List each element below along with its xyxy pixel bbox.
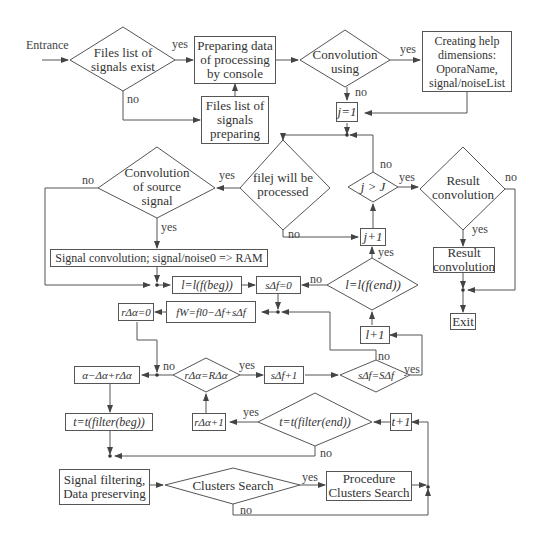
l-end-text: l=l(f(end))	[338, 277, 408, 293]
files-list-preparing-box: Files list of signals preparing	[201, 96, 269, 144]
yes-label: yes	[378, 245, 394, 260]
s-eq-S-text: sΔf=SΔf	[350, 368, 402, 382]
signal-convolution-box: Signal convolution; signal/noise0 => RAM	[50, 249, 268, 267]
result-convolution-question-text: Result convolution	[430, 172, 496, 204]
clusters-search-question-text: Clusters Search	[180, 478, 286, 494]
no-label: no	[505, 170, 517, 185]
yes-label: yes	[400, 42, 416, 57]
convolution-source-text: Convolution of source signal	[118, 165, 196, 209]
no-label: no	[310, 272, 322, 287]
yes-label: yes	[302, 470, 318, 485]
yes-label: yes	[161, 220, 177, 235]
s-increment-box: sΔf+1	[264, 366, 304, 384]
l-increment-box: l+1	[360, 326, 390, 344]
signal-filtering-box: Signal filtering, Data preserving	[59, 469, 150, 505]
r-zero-box: rΔα=0	[118, 303, 154, 321]
fw-box: fW=fl0−Δf+sΔf	[166, 301, 256, 323]
no-label: no	[378, 349, 390, 364]
no-label: no	[240, 503, 252, 518]
no-label: no	[380, 157, 392, 172]
preparing-data-box: Preparing data of processing by console	[194, 36, 276, 84]
t-end-text: t=t(filter(end))	[268, 414, 362, 430]
yes-label: yes	[243, 405, 259, 420]
yes-label: yes	[399, 170, 415, 185]
help-dimensions-box: Creating help dimensions: OporaName, sig…	[422, 31, 512, 92]
j-increment-box: j+1	[360, 228, 386, 246]
yes-label: yes	[472, 222, 488, 237]
yes-label: yes	[219, 168, 235, 183]
j-init-box: j=1	[336, 102, 358, 122]
j-gt-J-text: j > J	[355, 180, 391, 194]
convolution-using-text: Convolution using	[312, 48, 378, 76]
no-label: no	[82, 173, 94, 188]
s-zero-box: sΔf=0	[256, 276, 301, 294]
file-processed-text: filej will be processed	[252, 162, 314, 208]
alpha-box: α−Δα+rΔα	[74, 366, 140, 384]
yes-label: yes	[404, 362, 420, 377]
no-label: no	[288, 227, 300, 242]
exit-box: Exit	[450, 313, 476, 330]
yes-label: yes	[172, 37, 188, 52]
t-beg-box: t=t(filter(beg))	[65, 413, 153, 431]
r-increment-box: rΔα+1	[192, 413, 226, 431]
l-beg-box: l=l(f(beg))	[172, 276, 242, 294]
procedure-clusters-search-box: Procedure Clusters Search	[326, 471, 412, 501]
no-label: no	[355, 85, 367, 100]
entrance-label: Entrance	[26, 38, 69, 53]
yes-label: yes	[239, 358, 255, 373]
r-eq-R-text: rΔα=RΔα	[180, 368, 232, 382]
files-exist-text: Files list of signals exist	[85, 42, 161, 78]
no-label: no	[320, 446, 332, 461]
t-increment-box: t+1	[390, 413, 412, 431]
result-convolution-box: Result convolution	[433, 247, 495, 273]
no-label: no	[163, 359, 175, 374]
no-label: no	[127, 92, 139, 107]
